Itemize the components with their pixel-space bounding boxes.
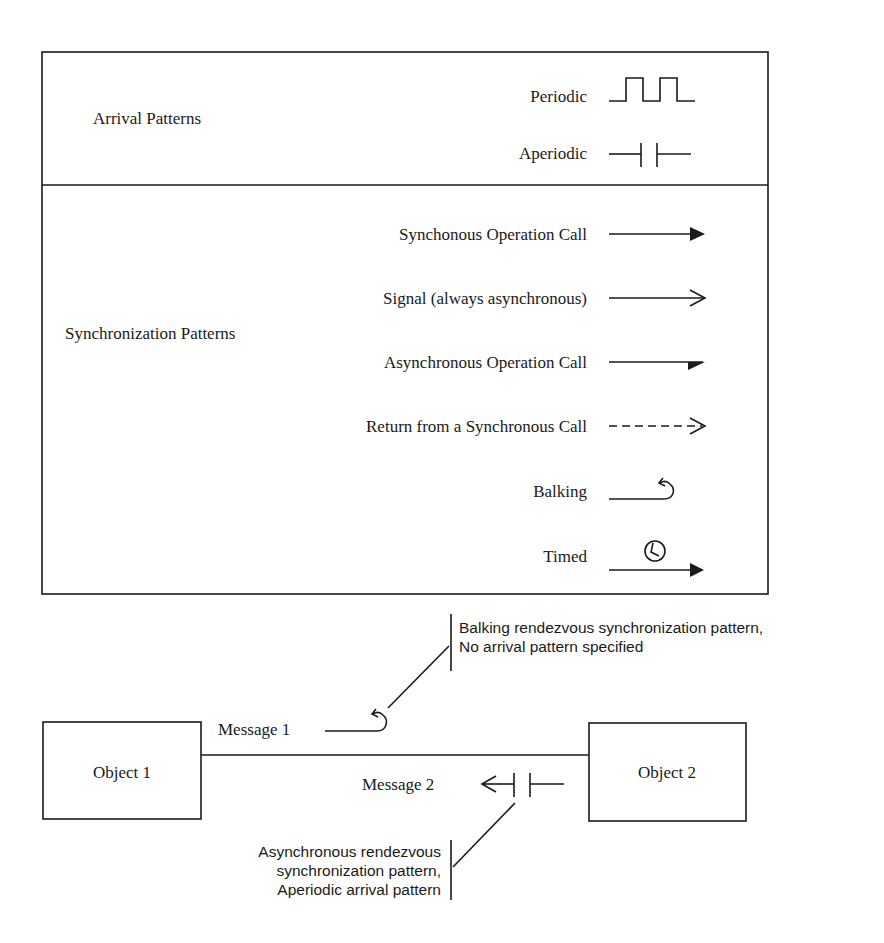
balking-hook-icon (609, 478, 673, 499)
dashed-arrow-icon (609, 418, 705, 434)
arrival-patterns-heading: Arrival Patterns (93, 109, 201, 128)
message2-label: Message 2 (362, 775, 434, 794)
concurrency-notation-diagram: Arrival Patterns Periodic Aperiodic Sync… (0, 0, 884, 943)
annotation-leader-bottom (453, 803, 515, 867)
periodic-label: Periodic (530, 87, 587, 106)
sync-call-label: Synchonous Operation Call (399, 225, 587, 244)
message1-balking-icon (325, 709, 386, 731)
message1-label: Message 1 (218, 720, 290, 739)
open-arrow-icon (609, 290, 705, 306)
object1-label: Object 1 (93, 763, 151, 782)
aperiodic-label: Aperiodic (519, 144, 587, 163)
balking-label: Balking (533, 482, 587, 501)
timed-clock-arrow-icon (609, 541, 704, 577)
signal-label: Signal (always asynchronous) (383, 289, 587, 308)
annotation-top-line1: Balking rendezvous synchronization patte… (459, 619, 763, 636)
half-arrow-icon (609, 362, 705, 370)
annotation-top-line2: No arrival pattern specified (459, 638, 643, 655)
timed-label: Timed (543, 547, 587, 566)
return-label: Return from a Synchronous Call (366, 417, 587, 436)
aperiodic-bars-icon (609, 143, 691, 167)
synchronization-patterns-heading: Synchronization Patterns (65, 324, 235, 343)
annotation-bottom-line3: Aperiodic arrival pattern (277, 881, 441, 898)
message2-aperiodic-arrow-icon (482, 773, 564, 797)
annotation-bottom-line2: synchronization pattern, (276, 862, 441, 879)
annotation-leader-top (388, 646, 449, 708)
async-call-label: Asynchronous Operation Call (384, 353, 587, 372)
object2-label: Object 2 (638, 763, 696, 782)
filled-arrow-icon (609, 227, 705, 241)
annotation-bottom-line1: Asynchronous rendezvous (258, 843, 441, 860)
legend-box (42, 52, 768, 594)
periodic-square-wave-icon (609, 78, 695, 101)
